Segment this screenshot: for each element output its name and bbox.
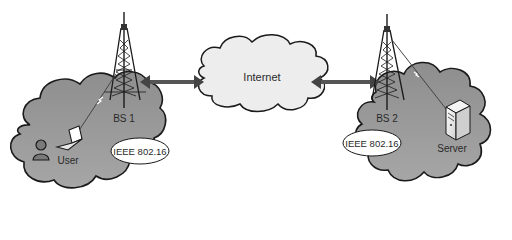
user-label: User	[57, 155, 79, 166]
link-arrow-bs1-internet	[140, 75, 204, 89]
left-network-cloud	[11, 72, 166, 188]
internet-cloud: Internet	[198, 35, 327, 112]
server-icon	[446, 100, 470, 140]
standard-badge-bs2: IEEE 802.16	[343, 130, 401, 156]
standard-label-bs1: IEEE 802.16	[113, 146, 166, 157]
standard-label-bs2: IEEE 802.16	[345, 138, 398, 149]
standard-badge-bs1: IEEE 802.16	[111, 138, 169, 164]
bs2-label: BS 2	[376, 113, 398, 124]
server-label: Server	[437, 143, 467, 154]
internet-label: Internet	[243, 71, 280, 83]
bs1-label: BS 1	[113, 113, 135, 124]
